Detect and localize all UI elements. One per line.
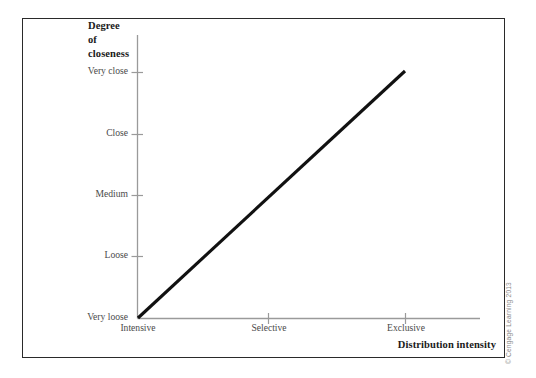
y-axis-title-line-3: closeness	[88, 47, 129, 61]
y-axis-title: Degree of closeness	[88, 19, 129, 61]
x-tick-label-selective: Selective	[251, 322, 286, 333]
data-line-series-1	[138, 71, 405, 318]
x-tick-label-intensive: Intensive	[120, 322, 155, 333]
x-tick-label-exclusive: Exclusive	[387, 322, 425, 333]
y-tick-text-loose: Loose	[105, 249, 128, 260]
x-axis-title: Distribution intensity	[0, 338, 496, 352]
x-tick-text-intensive: Intensive	[120, 322, 155, 333]
y-tick-text-very-loose: Very loose	[87, 311, 128, 322]
y-tick-text-medium: Medium	[95, 188, 128, 199]
y-tick-text-close: Close	[106, 127, 128, 138]
y-axis-title-line-1: Degree	[88, 19, 129, 33]
x-tick-text-selective: Selective	[251, 322, 286, 333]
figure-root: Degree of closeness Very close Close Med…	[0, 0, 536, 378]
y-tick-text-very-close: Very close	[88, 65, 128, 76]
copyright-credit: © Cengage Learning 2013	[505, 282, 512, 364]
x-tick-text-exclusive: Exclusive	[387, 322, 425, 333]
y-axis-title-line-2: of	[88, 33, 129, 47]
